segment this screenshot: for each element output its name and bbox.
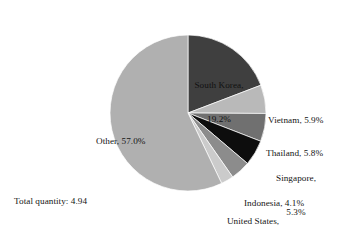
slice-label-south-korea-line1: South Korea,	[182, 80, 256, 91]
slice-label-united-states-line1: United States,	[205, 216, 301, 227]
slice-label-vietnam-text: Vietnam, 5.9%	[268, 115, 352, 126]
slice-label-south-korea: South Korea, 19.2%	[182, 58, 256, 148]
slice-label-other-text: Other, 57.0%	[96, 136, 174, 147]
slice-label-other: Other, 57.0%	[96, 114, 174, 170]
pie-chart-figure: South Korea, 19.2% Vietnam, 5.9% Thailan…	[0, 0, 353, 232]
slice-label-united-states: United States, 2.6%	[205, 194, 301, 232]
total-quantity-annotation: Total quantity: 4.94 million metric tons	[14, 174, 134, 232]
slice-label-south-korea-line2: 19.2%	[182, 114, 256, 125]
total-quantity-line2: million metric tons	[14, 230, 134, 232]
total-quantity-line1: Total quantity: 4.94	[14, 196, 134, 207]
